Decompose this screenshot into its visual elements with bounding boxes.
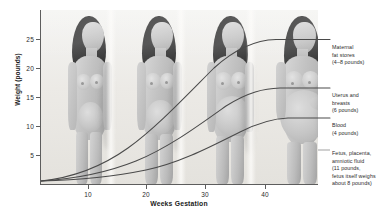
x-tick-mark-20 [146,184,147,189]
annotation-fetus-placenta-amniotic-fluid: Fetus, placenta, amniotic fluid (11 poun… [332,150,387,188]
y-tick-label-5: 5 [16,152,34,159]
y-tick-mark-20 [36,68,41,69]
pregnancy-weight-gain-figure: 25 20 15 10 5 10 20 30 40 Weight (pounds… [0,0,387,216]
x-tick-mark-30 [205,184,206,189]
annotation-line: Fetus, placenta, [332,150,387,158]
annotation-line: (4 pounds) [332,130,387,138]
x-tick-label-10: 10 [78,191,98,198]
y-tick-mark-10 [36,126,41,127]
annotation-line: about 8 pounds) [332,180,387,188]
annotation-line: Maternal [332,44,387,52]
y-tick-mark-25 [36,39,41,40]
annotation-blood: Blood (4 pounds) [332,122,387,137]
photo-wash-overlay [40,10,318,184]
x-tick-label-40: 40 [255,191,275,198]
y-tick-mark-15 [36,97,41,98]
plot-area [40,10,318,184]
annotation-uterus-and-breasts: Uterus and breasts (6 pounds) [332,92,387,115]
x-tick-label-20: 20 [136,191,156,198]
y-tick-mark-5 [36,155,41,156]
x-tick-label-30: 30 [195,191,215,198]
y-axis-label: Weight (pounds) [14,35,21,125]
annotation-line: fetus itself weighs [332,173,387,181]
annotation-line: (11 pounds, [332,165,387,173]
annotation-line: Blood [332,122,387,130]
annotation-line: (6 pounds) [332,107,387,115]
annotation-line: breasts [332,100,387,108]
x-axis-line [40,184,318,185]
annotation-maternal-fat-stores: Maternal fat stores (4–8 pounds) [332,44,387,67]
annotation-line: fat stores [332,52,387,60]
x-tick-mark-10 [88,184,89,189]
annotation-line: (4–8 pounds) [332,59,387,67]
x-tick-mark-40 [265,184,266,189]
x-axis-label: Weeks Gestation [40,200,318,207]
annotation-line: Uterus and [332,92,387,100]
annotation-line: amniotic fluid [332,158,387,166]
